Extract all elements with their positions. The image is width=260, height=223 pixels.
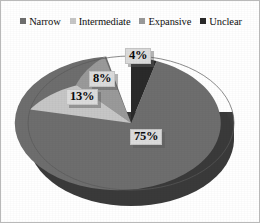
legend-item-unclear: Unclear bbox=[200, 16, 242, 27]
legend-swatch-expansive bbox=[139, 18, 145, 24]
pie-slice-narrow bbox=[15, 57, 221, 191]
chart-legend: Narrow Intermediate Expansive Unclear bbox=[1, 13, 260, 29]
legend-label-narrow: Narrow bbox=[29, 16, 60, 27]
data-label-narrow: 75% bbox=[130, 129, 162, 145]
legend-item-expansive: Expansive bbox=[139, 16, 191, 27]
legend-swatch-intermediate bbox=[70, 18, 76, 24]
pie-slices bbox=[15, 56, 221, 190]
legend-item-narrow: Narrow bbox=[20, 16, 60, 27]
legend-label-expansive: Expansive bbox=[148, 16, 191, 27]
legend-swatch-narrow bbox=[20, 18, 26, 24]
pie-chart-figure: Narrow Intermediate Expansive Unclear bbox=[0, 0, 260, 223]
legend-swatch-unclear bbox=[200, 18, 206, 24]
data-label-intermediate: 13% bbox=[66, 89, 98, 105]
legend-item-intermediate: Intermediate bbox=[70, 16, 131, 27]
data-label-unclear: 4% bbox=[125, 48, 151, 64]
data-label-expansive: 8% bbox=[89, 71, 115, 87]
legend-label-intermediate: Intermediate bbox=[79, 16, 131, 27]
legend-label-unclear: Unclear bbox=[209, 16, 242, 27]
